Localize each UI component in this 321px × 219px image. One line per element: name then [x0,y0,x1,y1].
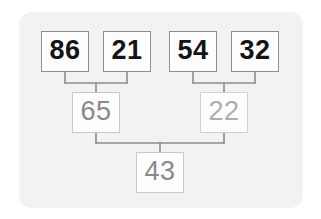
tree-node-leaf-1: 86 [41,31,89,72]
tree-node-value: 43 [144,158,175,185]
tree-node-value: 21 [111,37,142,64]
tree-node-value: 32 [239,37,270,64]
tree-node-value: 22 [208,98,239,125]
tree-node-leaf-2: 21 [103,31,151,72]
tree-node-value: 54 [177,37,208,64]
tree-node-leaf-4: 32 [231,31,279,72]
tree-node-leaf-3: 54 [169,31,217,72]
tree-node-root: 43 [136,152,184,193]
tree-node-intermediate-right: 22 [200,92,248,133]
tree-node-intermediate-left: 65 [72,92,120,133]
diagram-canvas: 86 21 54 32 65 22 43 [0,0,321,219]
tree-node-value: 65 [80,98,111,125]
tree-node-value: 86 [49,37,80,64]
